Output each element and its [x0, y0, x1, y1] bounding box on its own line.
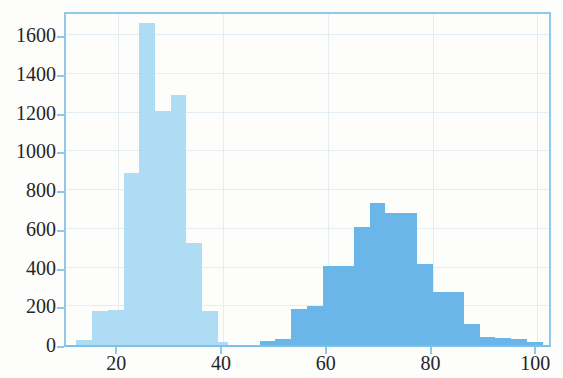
histogram-bar [155, 111, 171, 345]
histogram-bar [92, 311, 108, 345]
histogram-bar [385, 213, 401, 345]
y-axis-label: 600 [26, 218, 56, 241]
histogram-bar [448, 292, 464, 345]
x-axis-label: 100 [505, 352, 563, 375]
x-axis-label: 60 [296, 352, 356, 375]
histogram-bar [186, 243, 202, 345]
histogram-bar [354, 227, 370, 345]
histogram-bar [511, 339, 527, 345]
y-axis-label: 0 [46, 334, 56, 357]
histogram-bar [260, 341, 276, 345]
histogram-bar [124, 173, 140, 345]
y-axis-label: 800 [26, 179, 56, 202]
histogram-bar [139, 23, 155, 345]
histogram-bar [464, 324, 480, 345]
histogram-figure: 02004006008001000120014001600 2040608010… [0, 0, 563, 378]
histogram-bar [480, 337, 496, 345]
histogram-bar [218, 342, 228, 345]
histogram-bar [527, 342, 543, 345]
y-axis-tick [57, 75, 64, 77]
y-axis-tick [57, 114, 64, 116]
histogram-bar [202, 311, 218, 345]
histogram-bar [307, 306, 323, 345]
y-axis-label: 1200 [16, 102, 56, 125]
y-axis-label: 1000 [16, 140, 56, 163]
x-axis-label: 80 [401, 352, 461, 375]
gridline-x-20 [118, 14, 119, 345]
y-axis-label: 400 [26, 257, 56, 280]
plot-area [64, 12, 551, 347]
histogram-bar [495, 338, 511, 345]
y-axis-tick [57, 346, 64, 348]
y-axis-tick [57, 307, 64, 309]
x-axis-label: 40 [191, 352, 251, 375]
y-axis-tick [57, 269, 64, 271]
histogram-bar [291, 309, 307, 345]
y-axis-label: 200 [26, 295, 56, 318]
y-axis-tick [57, 230, 64, 232]
gridline-x-40 [223, 14, 224, 345]
histogram-bar [338, 266, 354, 345]
y-axis-tick [57, 152, 64, 154]
histogram-bar [171, 95, 187, 345]
y-axis-tick [57, 36, 64, 38]
histogram-bar [108, 310, 124, 345]
gridline-x-100 [537, 14, 538, 345]
histogram-bar [275, 339, 291, 345]
y-axis-label: 1600 [16, 24, 56, 47]
histogram-bar [323, 266, 339, 345]
histogram-bar [370, 203, 386, 345]
histogram-bar [417, 264, 433, 345]
histogram-bar [76, 340, 92, 345]
y-axis-tick [57, 191, 64, 193]
x-axis-label: 20 [86, 352, 146, 375]
histogram-bar [401, 213, 417, 345]
y-axis-label: 1400 [16, 63, 56, 86]
histogram-bar [433, 292, 449, 345]
